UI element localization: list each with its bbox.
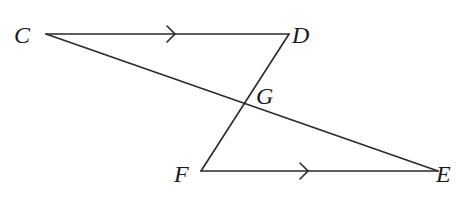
label-e: E bbox=[435, 161, 451, 187]
segment-ce bbox=[46, 34, 438, 171]
label-g: G bbox=[256, 83, 273, 109]
geometry-diagram: C D G F E bbox=[0, 0, 465, 200]
segment-df bbox=[201, 34, 289, 171]
label-f: F bbox=[173, 161, 189, 187]
label-c: C bbox=[14, 22, 31, 48]
label-d: D bbox=[291, 22, 309, 48]
